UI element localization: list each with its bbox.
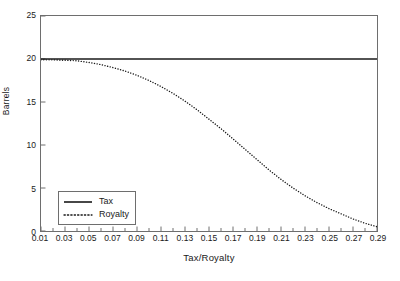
x-axis-tick-labels: 0.010.030.050.070.090.110.130.150.170.19… xyxy=(40,234,378,248)
y-tick-label: 25 xyxy=(10,11,36,20)
x-axis-title: Tax/Royalty xyxy=(40,252,378,263)
y-tick-label: 10 xyxy=(10,141,36,150)
legend-item-tax: Tax xyxy=(63,195,129,208)
legend-item-royalty: Royalty xyxy=(63,208,129,221)
legend-label-tax: Tax xyxy=(93,197,113,206)
y-axis-tick-labels: 0510152025 xyxy=(0,15,36,232)
legend-label-royalty: Royalty xyxy=(93,210,129,219)
chart-legend: Tax Royalty xyxy=(58,191,136,225)
dotted-line-icon xyxy=(63,210,93,220)
y-tick-label: 5 xyxy=(10,185,36,194)
solid-line-icon xyxy=(63,197,93,207)
y-tick-label: 15 xyxy=(10,98,36,107)
chart-figure: Barrels 0510152025 0.010.030.050.070.090… xyxy=(0,0,400,281)
y-tick-label: 20 xyxy=(10,54,36,63)
x-tick-label: 0.29 xyxy=(358,234,398,243)
